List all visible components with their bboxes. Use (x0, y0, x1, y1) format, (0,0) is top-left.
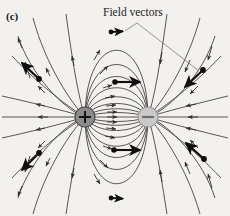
field-vector-shaft (111, 198, 123, 199)
negative-charge (138, 107, 158, 127)
dipole-field-figure: (c) Field vectors (0, 0, 230, 216)
field-line-canvas (0, 0, 230, 216)
panel-label: (c) (6, 10, 18, 22)
field-vectors-label: Field vectors (103, 6, 163, 18)
positive-charge (75, 107, 95, 127)
field-vector-shaft (111, 31, 123, 32)
